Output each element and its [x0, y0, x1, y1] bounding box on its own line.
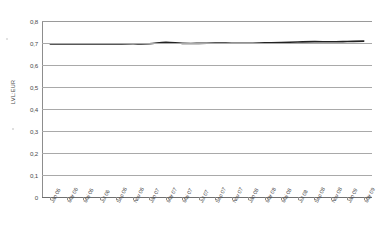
gridline: [42, 21, 372, 22]
gridline: [42, 153, 372, 154]
y-axis-tick-label: 0,7: [8, 40, 38, 47]
chart-page: LVL:EUR 0,80,70,60,50,40,30,20,10Jän 06M…: [0, 0, 384, 240]
plot-area: [42, 21, 372, 197]
y-axis-title: LVL:EUR: [10, 62, 16, 122]
gridline: [42, 197, 372, 198]
gridline: [42, 43, 372, 44]
y-axis-tick-label: 0,2: [8, 150, 38, 157]
gridline: [42, 87, 372, 88]
y-axis-tick-label: 0,3: [8, 128, 38, 135]
y-axis-tick-label: 0,6: [8, 62, 38, 69]
y-axis-tick-label: 0,5: [8, 84, 38, 91]
y-axis-tick-label: 0,8: [8, 18, 38, 25]
gridline: [42, 109, 372, 110]
gridline: [42, 131, 372, 132]
gridline: [42, 175, 372, 176]
y-axis-tick-label: 0,1: [8, 172, 38, 179]
y-axis-tick-label: 0: [8, 194, 38, 201]
y-axis-tick-label: 0,4: [8, 106, 38, 113]
gridline: [42, 65, 372, 66]
